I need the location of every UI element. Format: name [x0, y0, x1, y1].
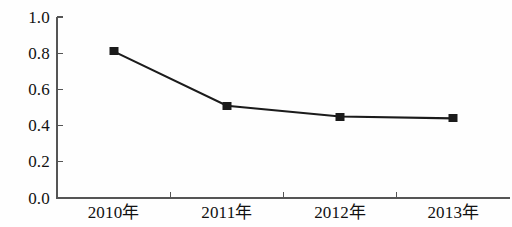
series-line — [114, 51, 454, 118]
data-point-marker — [109, 47, 118, 55]
data-point-marker — [449, 114, 458, 122]
x-axis-tick-marks — [170, 192, 397, 198]
chart-canvas — [0, 0, 512, 227]
y-axis-tick-label: 0.8 — [8, 45, 50, 62]
data-point-marker — [222, 102, 231, 110]
y-axis-tick-label: 0.0 — [8, 190, 50, 207]
x-axis-tick-label: 2010年 — [54, 203, 174, 223]
y-axis-tick-label: 0.4 — [8, 117, 50, 134]
y-axis-tick-label: 1.0 — [8, 9, 50, 26]
x-axis-tick-label: 2013年 — [393, 203, 512, 223]
line-chart: 1.00.80.60.40.20.0 2010年2011年2012年2013年 — [0, 0, 512, 227]
y-axis-tick-marks — [57, 53, 63, 198]
series-group — [114, 51, 454, 118]
data-point-marker — [336, 113, 345, 121]
y-axis-tick-label: 0.6 — [8, 81, 50, 98]
x-axis-tick-label: 2012年 — [280, 203, 400, 223]
axis-lines — [57, 17, 510, 198]
y-axis-tick-label: 0.2 — [8, 153, 50, 170]
x-axis-tick-label: 2011年 — [167, 203, 287, 223]
axis-group — [57, 17, 510, 198]
